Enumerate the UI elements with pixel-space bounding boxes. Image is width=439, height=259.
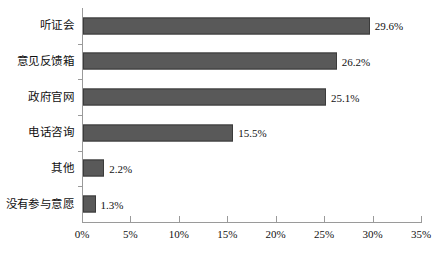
y-axis-tick bbox=[78, 44, 83, 45]
bar-row: 电话咨询15.5% bbox=[0, 115, 439, 151]
bar-row: 其他2.2% bbox=[0, 151, 439, 187]
category-label: 意见反馈箱 bbox=[0, 55, 74, 68]
x-axis-tick-label: 5% bbox=[123, 228, 138, 241]
bar-with-label: 1.3% bbox=[83, 196, 124, 213]
bar-value-label: 29.6% bbox=[375, 20, 403, 32]
category-label: 电话咨询 bbox=[0, 126, 74, 139]
category-label: 其他 bbox=[0, 162, 74, 175]
bar-row: 政府官网25.1% bbox=[0, 79, 439, 115]
bar-value-label: 2.2% bbox=[109, 162, 132, 174]
y-axis-tick bbox=[78, 115, 83, 116]
bar bbox=[83, 124, 233, 141]
bar bbox=[83, 89, 326, 106]
bar bbox=[83, 17, 370, 34]
x-axis-line bbox=[82, 222, 422, 223]
bar-with-label: 2.2% bbox=[83, 160, 132, 177]
bar bbox=[83, 160, 104, 177]
bar-row: 听证会29.6% bbox=[0, 8, 439, 44]
bar-with-label: 26.2% bbox=[83, 53, 370, 70]
bar-rows: 听证会29.6%意见反馈箱26.2%政府官网25.1%电话咨询15.5%其他2.… bbox=[0, 8, 439, 222]
y-axis-tick bbox=[78, 79, 83, 80]
x-axis-tick-label: 15% bbox=[217, 228, 237, 241]
bar-value-label: 15.5% bbox=[238, 127, 266, 139]
bar-value-label: 1.3% bbox=[101, 198, 124, 210]
category-label: 听证会 bbox=[0, 19, 74, 32]
x-axis-tick-label: 30% bbox=[362, 228, 382, 241]
bar-with-label: 15.5% bbox=[83, 124, 267, 141]
bar bbox=[83, 53, 337, 70]
x-axis-tick-label: 0% bbox=[75, 228, 90, 241]
bar-with-label: 29.6% bbox=[83, 17, 403, 34]
category-label: 没有参与意愿 bbox=[0, 198, 74, 211]
bar-value-label: 26.2% bbox=[342, 55, 370, 67]
x-axis-tick-label: 10% bbox=[169, 228, 189, 241]
bar-chart: 听证会29.6%意见反馈箱26.2%政府官网25.1%电话咨询15.5%其他2.… bbox=[0, 0, 439, 259]
bar-row: 意见反馈箱26.2% bbox=[0, 44, 439, 80]
x-axis-tick-label: 35% bbox=[411, 228, 431, 241]
x-axis-tick-label: 25% bbox=[314, 228, 334, 241]
category-label: 政府官网 bbox=[0, 91, 74, 104]
bar-value-label: 25.1% bbox=[331, 91, 359, 103]
y-axis-tick bbox=[78, 186, 83, 187]
bar-with-label: 25.1% bbox=[83, 89, 360, 106]
y-axis-tick bbox=[78, 151, 83, 152]
x-axis-tick-label: 20% bbox=[266, 228, 286, 241]
bar bbox=[83, 196, 96, 213]
bar-row: 没有参与意愿1.3% bbox=[0, 186, 439, 222]
